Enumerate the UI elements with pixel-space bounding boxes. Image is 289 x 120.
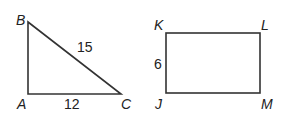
vertex-a-label: A [17, 97, 26, 111]
vertex-m-label: M [261, 97, 273, 111]
side-ac-length: 12 [64, 97, 80, 111]
vertex-c-label: C [121, 97, 131, 111]
vertex-j-label: J [155, 97, 162, 111]
side-jk-length: 6 [154, 57, 162, 71]
triangle-abc [28, 22, 121, 94]
rectangle-jklm [166, 33, 260, 93]
vertex-b-label: B [16, 13, 25, 27]
vertex-l-label: L [261, 18, 269, 32]
vertex-k-label: K [154, 18, 163, 32]
figure-canvas [0, 0, 289, 120]
side-bc-length: 15 [77, 40, 93, 54]
